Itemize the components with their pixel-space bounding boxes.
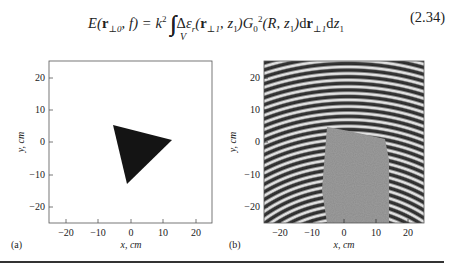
svg-text:20: 20 — [191, 227, 201, 238]
y-axis-label-b: y, cm — [227, 132, 238, 154]
svg-text:−10: −10 — [304, 227, 320, 238]
svg-text:10: 10 — [250, 104, 260, 115]
svg-text:20: 20 — [403, 227, 413, 238]
equation-number: (2.34) — [410, 9, 445, 26]
equation-expression: E(r⊥0, f) = k2 ∫∫∫Δεr(r⊥1, z1)G02(R, z1)… — [88, 8, 344, 34]
svg-text:10: 10 — [158, 227, 168, 238]
panel-label-a: (a) — [11, 239, 22, 251]
section-divider — [0, 261, 444, 263]
svg-text:0: 0 — [342, 227, 347, 238]
y-tick-labels-b: 20 10 0 −10 −20 — [244, 72, 260, 212]
x-axis-label-a: x, cm — [119, 239, 141, 250]
x-tick-labels-b: −20 −10 0 10 20 — [272, 227, 413, 238]
svg-text:−20: −20 — [244, 201, 260, 212]
svg-text:−20: −20 — [29, 201, 45, 212]
figure-b: −20 −10 0 10 20 20 10 0 −10 −20 x, cm y,… — [227, 61, 424, 251]
svg-text:−20: −20 — [272, 227, 288, 238]
fringe-image — [264, 61, 424, 223]
svg-text:20: 20 — [35, 72, 45, 83]
y-axis-label-a: y, cm — [15, 132, 26, 154]
integration-domain: V — [180, 31, 186, 42]
svg-text:10: 10 — [371, 227, 381, 238]
svg-text:20: 20 — [250, 72, 260, 83]
svg-text:0: 0 — [255, 136, 260, 147]
svg-text:10: 10 — [35, 104, 45, 115]
svg-text:0: 0 — [129, 227, 134, 238]
x-tick-labels-a: −20 −10 0 10 20 — [58, 227, 201, 238]
panel-label-b: (b) — [229, 239, 241, 251]
y-tick-labels-a: 20 10 0 −10 −20 — [29, 72, 45, 212]
svg-text:−20: −20 — [58, 227, 74, 238]
svg-text:−10: −10 — [29, 169, 45, 180]
svg-text:0: 0 — [40, 136, 45, 147]
svg-text:−10: −10 — [244, 169, 260, 180]
equation-2-34: E(r⊥0, f) = k2 ∫∫∫Δεr(r⊥1, z1)G02(R, z1)… — [0, 0, 454, 48]
figure-a: −20 −10 0 10 20 20 10 0 −10 −20 x, cm y,… — [11, 61, 212, 251]
svg-text:−10: −10 — [90, 227, 106, 238]
x-axis-label-b: x, cm — [332, 239, 354, 250]
